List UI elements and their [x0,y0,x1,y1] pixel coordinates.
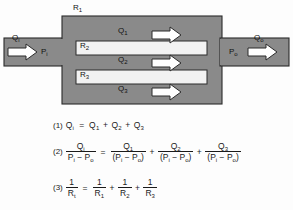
equation-3-term-3-denominator: R3 [143,187,156,197]
label-branch-flow-3-subscript: 3 [124,88,127,94]
equation-3-term-1-den-symbol: R [95,188,101,198]
equation-2-term-3-fraction: Q3 (Pi − Po) [205,142,240,162]
equation-1: (1) Qi = Q1 + Q2 + Q3 [53,120,144,130]
equation-2-number: (2) [53,147,63,156]
equation-3-lhs-den-subscript: t [74,193,76,199]
equation-3-number: (3) [53,183,63,192]
label-resistance-3-symbol: R [80,70,86,79]
equation-2-term-3-den-minus: − [220,152,225,162]
equation-3-term-1-denominator: R1 [93,187,106,197]
equation-3-equals: = [83,183,88,193]
equation-2-lhs-den-p1-subscript: i [73,157,74,163]
equation-2-term-3-den-p2-subscript: o [233,157,236,163]
equation-1-term-2-subscript: 2 [118,125,122,131]
equation-2-lhs-numerator: Qi [75,142,87,151]
equation-2-term-3-numerator-symbol: Q [218,141,225,151]
equation-2-term-1-fraction: Q1 (Pi − Po) [111,142,146,162]
label-resistance-3: R3 [80,71,89,79]
label-resistance-2-subscript: 2 [86,45,89,51]
equation-3-term-1-den-subscript: 1 [101,193,104,199]
equation-2-term-2-den-p1-subscript: i [168,157,169,163]
equation-1-lhs: Qi [66,120,74,130]
equation-3: (3) 1 Rt = 1 R1 + 1 R2 + 1 R3 [53,178,157,198]
equation-2-lhs-den-minus: − [77,152,82,162]
equation-1-equals: = [79,120,84,130]
inlet-pipe-seam [61,39,64,65]
equation-list: (1) Qi = Q1 + Q2 + Q3 (2) Qi Pi − Po = Q… [0,110,293,210]
label-branch-flow-3: Q3 [118,85,128,93]
equation-2-term-2-numerator-subscript: 2 [177,146,180,152]
resistance-block [62,16,222,104]
equation-2-term-1-numerator-symbol: Q [123,141,130,151]
equation-3-plus-1: + [110,183,115,193]
equation-1-lhs-symbol: Q [66,120,73,130]
label-resistance-1-subscript: 1 [79,7,82,13]
label-resistance-2-symbol: R [80,41,86,50]
label-resistance-1-symbol: R [73,3,79,12]
equation-2-plus-2: + [197,147,202,157]
equation-3-term-3-den-subscript: 3 [152,193,155,199]
equation-3-lhs-denominator: Rt [66,187,78,197]
equation-2-term-3-denominator: (Pi − Po) [205,151,240,161]
equation-3-plus-2: + [135,183,140,193]
equation-1-term-1-subscript: 1 [96,125,100,131]
equation-2-term-1-numerator-subscript: 1 [130,146,133,152]
channel-divider-lower [76,70,207,84]
label-outlet-flow-subscript: o [260,37,263,43]
equation-2-term-1-den-close-paren: ) [141,152,144,162]
equation-3-term-2-denominator: R2 [118,187,131,197]
equation-2-term-3-den-p1-subscript: i [216,157,217,163]
equation-2-term-3-den-p2: P [227,152,233,162]
equation-3-term-3-numerator: 1 [146,178,155,187]
equation-2-term-2-denominator: (Pi − Po) [158,151,193,161]
label-branch-flow-1-subscript: 1 [124,30,127,36]
flow-network-diagram: R1 Qi Pi Q1 R2 Q2 R3 Q3 Po Qo [0,0,293,110]
equation-2-equals: = [101,147,106,157]
equation-1-term-1-symbol: Q [89,120,96,130]
equation-1-term-1: Q1 [89,120,99,130]
equation-1-term-3: Q3 [134,120,144,130]
label-branch-flow-2-subscript: 2 [124,59,127,65]
label-resistance-3-subscript: 3 [86,74,89,80]
equation-2-term-1-denominator: (Pi − Po) [111,151,146,161]
equation-3-term-2-fraction: 1 R2 [118,178,131,198]
equation-2-term-1-den-p1-subscript: i [121,157,122,163]
label-inlet-pressure: Pi [41,48,48,56]
equation-2: (2) Qi Pi − Po = Q1 (Pi − Po) + Q2 (Pi −… [53,142,241,162]
equation-3-lhs-den-symbol: R [68,188,74,198]
equation-3-term-2-den-subscript: 2 [126,193,129,199]
equation-2-term-3-den-close-paren: ) [236,152,239,162]
equation-1-lhs-subscript: i [73,125,75,131]
figure-page: R1 Qi Pi Q1 R2 Q2 R3 Q3 Po Qo [0,0,293,210]
equation-2-lhs-fraction: Qi Pi − Po [66,142,96,162]
equation-1-plus-2: + [125,120,130,130]
label-inlet-pressure-subscript: i [46,51,47,57]
equation-3-term-1-fraction: 1 R1 [93,178,106,198]
equation-2-term-1-den-p2: P [132,152,138,162]
equation-1-number: (1) [53,121,63,130]
label-outlet-flow: Qo [254,34,264,42]
equation-2-term-1-den-minus: − [125,152,130,162]
equation-2-term-2-den-p2-subscript: o [185,157,188,163]
equation-2-term-2-numerator: Q2 [169,142,183,151]
equation-3-lhs-numerator: 1 [67,178,76,187]
equation-2-term-3-numerator-subscript: 3 [225,146,228,152]
equation-2-lhs-denominator: Pi − Po [66,151,96,161]
equation-1-term-2: Q2 [111,120,121,130]
equation-2-term-2-den-minus: − [172,152,177,162]
label-resistance-1: R1 [73,4,82,12]
equation-1-plus-1: + [103,120,108,130]
equation-3-term-3-fraction: 1 R3 [143,178,156,198]
label-inlet-flow: Qi [12,34,20,42]
equation-2-term-1-den-p2-subscript: o [138,157,141,163]
equation-1-term-3-subscript: 3 [141,125,145,131]
equation-1-term-3-symbol: Q [134,120,141,130]
label-resistance-2: R2 [80,42,89,50]
equation-3-term-1-numerator: 1 [95,178,104,187]
equation-2-term-2-fraction: Q2 (Pi − Po) [158,142,193,162]
outlet-pipe-seam [220,39,223,65]
equation-3-term-2-numerator: 1 [120,178,129,187]
label-inlet-flow-subscript: i [18,37,19,43]
equation-3-lhs-fraction: 1 Rt [66,178,78,198]
equation-2-lhs-den-p2-subscript: o [90,157,93,163]
